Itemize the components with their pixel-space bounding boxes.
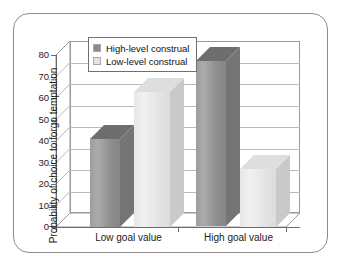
legend-swatch-low-level-construal xyxy=(93,57,101,65)
bar-high-goal-low-level xyxy=(240,169,276,227)
legend-label-low-level-construal: Low-level construal xyxy=(106,56,187,67)
chart-legend: High-level construal Low-level construal xyxy=(88,37,197,72)
bar-shape xyxy=(240,155,292,228)
bar-shape xyxy=(134,78,186,228)
bar-shape xyxy=(196,47,242,227)
legend-item-high-level-construal: High-level construal xyxy=(93,42,189,54)
y-axis-title-wrapper: Probability of choice to forgo temptatio… xyxy=(26,30,40,220)
x-axis-label-low-goal-value: Low goal value xyxy=(76,232,181,243)
y-tick-label-0: 0 xyxy=(27,221,49,232)
legend-label-high-level-construal: High-level construal xyxy=(106,43,189,54)
x-axis-label-high-goal-value: High goal value xyxy=(186,232,291,243)
chart-figure: 80 70 60 50 40 30 20 10 0 Low goal value… xyxy=(0,0,343,275)
y-tick-80 xyxy=(51,55,56,56)
y-axis-title: Probability of choice to forgo temptatio… xyxy=(48,66,59,246)
bar-low-goal-high-level xyxy=(90,139,120,227)
bar-shape xyxy=(90,125,136,228)
legend-item-low-level-construal: Low-level construal xyxy=(93,55,189,67)
legend-swatch-high-level-construal xyxy=(93,44,101,52)
bar-low-goal-low-level xyxy=(134,92,170,228)
bar-high-goal-high-level xyxy=(196,61,226,227)
plot-area: 80 70 60 50 40 30 20 10 0 Low goal value… xyxy=(0,0,343,275)
